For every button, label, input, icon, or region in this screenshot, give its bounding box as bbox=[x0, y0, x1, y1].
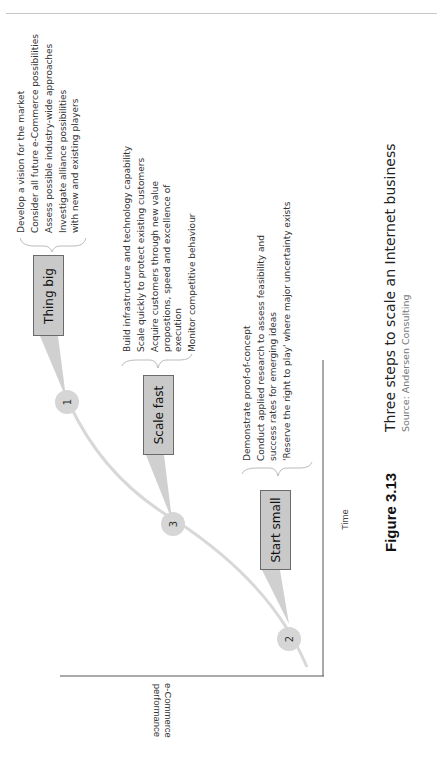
bullet-item: Build infrastructure and technology capa… bbox=[122, 122, 134, 352]
step-label: Start small bbox=[269, 497, 283, 562]
pointer-thing-big bbox=[40, 336, 66, 398]
y-axis-label: e-Commerce performance bbox=[152, 683, 174, 738]
bullets-thing-big: Develop a vision for the market Consider… bbox=[16, 3, 84, 233]
bullet-item: Assess possible industry-wide approaches bbox=[44, 3, 56, 233]
bullet-item: Consider all future e-Commerce possibili… bbox=[30, 3, 42, 233]
bullet-item: 'Reserve the right to play' where major … bbox=[282, 231, 294, 461]
brace-thing-big bbox=[20, 238, 86, 252]
bullet-item: Demonstrate proof-of-concept bbox=[242, 231, 254, 461]
bullet-item: Scale quickly to protect existing custom… bbox=[136, 122, 148, 352]
step-number: 1 bbox=[55, 390, 79, 414]
figure-title: Three steps to scale an Internet busines… bbox=[382, 143, 398, 432]
pointer-start-small bbox=[262, 570, 289, 624]
figure-number: Figure 3.13 bbox=[382, 473, 399, 552]
bullet-item: Monitor competitive behaviour bbox=[187, 122, 199, 352]
y-axis-label-line1: e-Commerce bbox=[163, 683, 174, 738]
step-marker-3: 3 bbox=[161, 512, 185, 536]
step-box-start-small: Start small bbox=[260, 490, 291, 570]
brace-scale-fast bbox=[122, 354, 192, 368]
step-label: Scale fast bbox=[152, 386, 166, 445]
step-label: Thing big bbox=[42, 268, 56, 324]
x-axis-label: Time bbox=[339, 509, 350, 530]
step-marker-1: 1 bbox=[55, 390, 79, 414]
bullets-scale-fast: Build infrastructure and technology capa… bbox=[122, 122, 201, 352]
bullet-item: Conduct applied research to assess feasi… bbox=[256, 229, 279, 461]
step-box-scale-fast: Scale fast bbox=[143, 375, 174, 455]
step-marker-2: 2 bbox=[277, 627, 301, 651]
bullet-item: Investigate alliance possibilities with … bbox=[58, 81, 81, 233]
step-box-thing-big: Thing big bbox=[33, 255, 64, 336]
bullets-start-small: Demonstrate proof-of-concept Conduct app… bbox=[242, 231, 296, 461]
bullet-item: Acquire customers through new value prop… bbox=[150, 162, 185, 352]
step-number: 3 bbox=[161, 512, 185, 536]
figure-source: Source: Andersen Consulting bbox=[400, 295, 411, 432]
y-axis-label-line2: performance bbox=[152, 683, 163, 738]
bullet-item: Develop a vision for the market bbox=[16, 3, 28, 233]
brace-start-small bbox=[242, 462, 312, 476]
step-number: 2 bbox=[277, 627, 301, 651]
